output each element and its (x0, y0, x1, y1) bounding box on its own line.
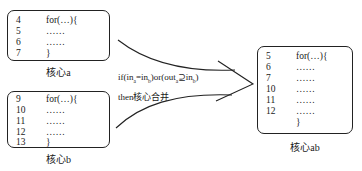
code-line: 6…… (258, 62, 352, 73)
code-line: 5for(…){ (258, 51, 352, 62)
code-line: 7…… (258, 73, 352, 84)
code-line: 10…… (258, 84, 352, 95)
core-b-box: 9for(…){ 10…… 11…… 12…… 13} (7, 91, 110, 148)
merge-action: then核心合并 (118, 90, 170, 103)
core-ab-box: 5for(…){ 6…… 7…… 10…… 11…… 12…… } (257, 46, 353, 134)
core-a-label: 核心a (7, 64, 110, 79)
code-line: 11…… (8, 116, 109, 127)
code-line: } (258, 117, 352, 128)
merge-condition: if(ina=inb)or(outa⊇inb) (118, 72, 199, 84)
code-line: 6…… (8, 37, 109, 48)
code-line: 5…… (8, 26, 109, 37)
code-line: 9for(…){ (8, 94, 109, 105)
code-line: 7} (8, 48, 109, 59)
code-line: 4for(…){ (8, 15, 109, 26)
code-line: 10…… (8, 105, 109, 116)
code-line: 13} (8, 137, 109, 148)
core-b-label: 核心b (7, 151, 110, 166)
code-line: 12…… (258, 106, 352, 117)
arrow-curve-a (118, 40, 235, 70)
code-line: 11…… (258, 95, 352, 106)
core-a-box: 4for(…){ 5…… 6…… 7} (7, 10, 110, 61)
core-ab-label: 核心ab (257, 139, 353, 154)
